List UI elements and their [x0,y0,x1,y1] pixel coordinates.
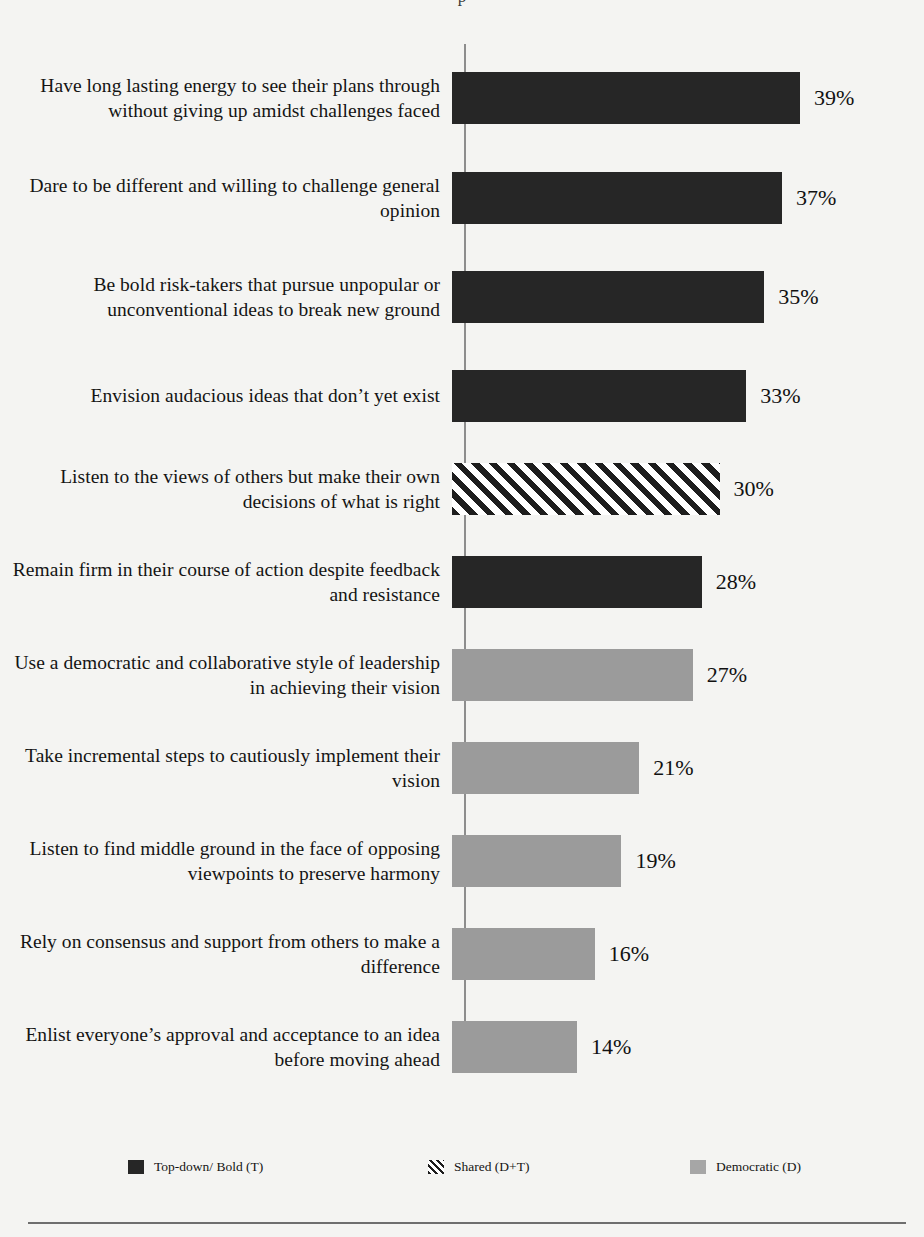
bar-solid-gray [452,649,693,701]
bar-row: Rely on consensus and support from other… [0,907,924,1000]
bar-value-label: 35% [778,286,818,308]
bar-row: Dare to be different and willing to chal… [0,151,924,244]
category-label: Listen to the views of others but make t… [0,464,452,514]
bar-solid-dark [452,72,800,124]
legend-swatch-icon [690,1160,706,1174]
bar-solid-dark [452,370,746,422]
bar-plot-area: 28% [452,535,924,628]
bar-plot-area: 16% [452,907,924,1000]
bar-row: Have long lasting energy to see their pl… [0,44,924,151]
legend-label: Shared (D+T) [454,1160,529,1174]
category-label: Enlist everyone’s approval and acceptanc… [0,1022,452,1072]
bar-row: Listen to find middle ground in the face… [0,814,924,907]
legend-label: Democratic (D) [716,1160,801,1174]
category-label: Take incremental steps to cautiously imp… [0,743,452,793]
legend-item-top-down[interactable]: Top-down/ Bold (T) [128,1160,263,1174]
bar-value-label: 21% [653,757,693,779]
category-label: Rely on consensus and support from other… [0,929,452,979]
bar-row: Be bold risk-takers that pursue unpopula… [0,244,924,349]
bar-value-label: 27% [707,664,747,686]
bar-chart: Have long lasting energy to see their pl… [0,0,924,1160]
category-label: Remain firm in their course of action de… [0,557,452,607]
category-label: Dare to be different and willing to chal… [0,173,452,223]
bar-plot-area: 21% [452,721,924,814]
bar-value-label: 14% [591,1036,631,1058]
bar-plot-area: 37% [452,151,924,244]
bar-solid-dark [452,556,702,608]
category-label: Have long lasting energy to see their pl… [0,73,452,123]
bar-value-label: 28% [716,571,756,593]
bar-row: Envision audacious ideas that don’t yet … [0,349,924,442]
bar-row: Remain firm in their course of action de… [0,535,924,628]
bar-plot-area: 27% [452,628,924,721]
legend-item-democratic[interactable]: Democratic (D) [690,1160,801,1174]
bar-solid-dark [452,172,782,224]
category-label: Be bold risk-takers that pursue unpopula… [0,272,452,322]
bar-value-label: 30% [734,478,774,500]
bar-value-label: 19% [635,850,675,872]
bar-plot-area: 30% [452,442,924,535]
bar-solid-gray [452,835,621,887]
bar-hatch [452,463,720,515]
legend-item-shared[interactable]: Shared (D+T) [428,1160,529,1174]
bar-plot-area: 33% [452,349,924,442]
bar-value-label: 37% [796,187,836,209]
bar-row: Enlist everyone’s approval and acceptanc… [0,1000,924,1093]
bar-value-label: 16% [609,943,649,965]
category-label: Use a democratic and collaborative style… [0,650,452,700]
bar-solid-dark [452,271,764,323]
legend-swatch-icon [128,1160,144,1174]
bar-row: Take incremental steps to cautiously imp… [0,721,924,814]
bar-row: Listen to the views of others but make t… [0,442,924,535]
bar-value-label: 33% [760,385,800,407]
chart-legend: Top-down/ Bold (T)Shared (D+T)Democratic… [0,1150,924,1184]
bar-plot-area: 39% [452,44,924,151]
legend-label: Top-down/ Bold (T) [154,1160,263,1174]
bar-rows: Have long lasting energy to see their pl… [0,44,924,1093]
bar-solid-gray [452,928,595,980]
category-label: Listen to find middle ground in the face… [0,836,452,886]
bar-solid-gray [452,742,639,794]
legend-swatch-icon [428,1160,444,1174]
bar-solid-gray [452,1021,577,1073]
bar-plot-area: 14% [452,1000,924,1093]
bar-row: Use a democratic and collaborative style… [0,628,924,721]
category-label: Envision audacious ideas that don’t yet … [0,383,452,408]
bar-value-label: 39% [814,87,854,109]
bar-plot-area: 19% [452,814,924,907]
bar-plot-area: 35% [452,244,924,349]
footer-divider [28,1222,906,1224]
